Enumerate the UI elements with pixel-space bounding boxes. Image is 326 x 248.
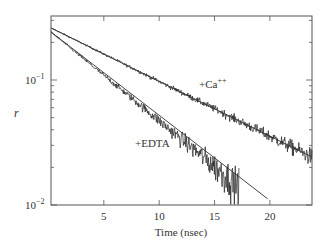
x-tick-label: 5 [101,210,107,222]
axis-ticks [51,16,312,205]
x-tick-label: 20 [264,210,276,222]
fit-line-edta [51,32,268,199]
fit-lines [51,28,312,199]
x-tick-label: 10 [154,210,166,222]
annotation-ca-text: +Ca [199,78,218,90]
annotation-ca: +Ca++ [199,76,227,90]
data-trace-ca [51,28,312,164]
annotation-edta: +EDTA [135,137,170,149]
annotation-ca-superscript: ++ [217,76,227,85]
x-tick-label: 15 [209,210,221,222]
decay-chart: 510152010−110−2 Time (nsec) r +Ca++ +EDT… [0,0,326,248]
data-trace-edta [51,31,239,204]
plot-frame [51,16,312,205]
x-axis-label: Time (nsec) [155,226,208,239]
data-traces [51,28,312,205]
y-tick-label: 10−2 [25,197,45,211]
y-tick-label: 10−1 [25,72,45,86]
y-axis-label: r [14,106,19,120]
